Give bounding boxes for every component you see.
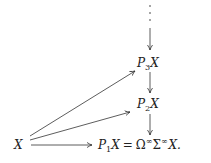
- node-p2x: P2X: [136, 97, 159, 113]
- postnikov-tower-diagram: X P3X P2X P1X=Ω∞Σ∞X.: [0, 0, 211, 163]
- vertical-ellipsis: [149, 5, 151, 21]
- arrow-x-to-p3: [30, 71, 135, 136]
- arrow-x-to-p2: [30, 112, 130, 140]
- node-x: X: [13, 138, 23, 152]
- node-p3x: P3X: [136, 56, 159, 72]
- node-p1x: P1X=Ω∞Σ∞X.: [97, 137, 181, 154]
